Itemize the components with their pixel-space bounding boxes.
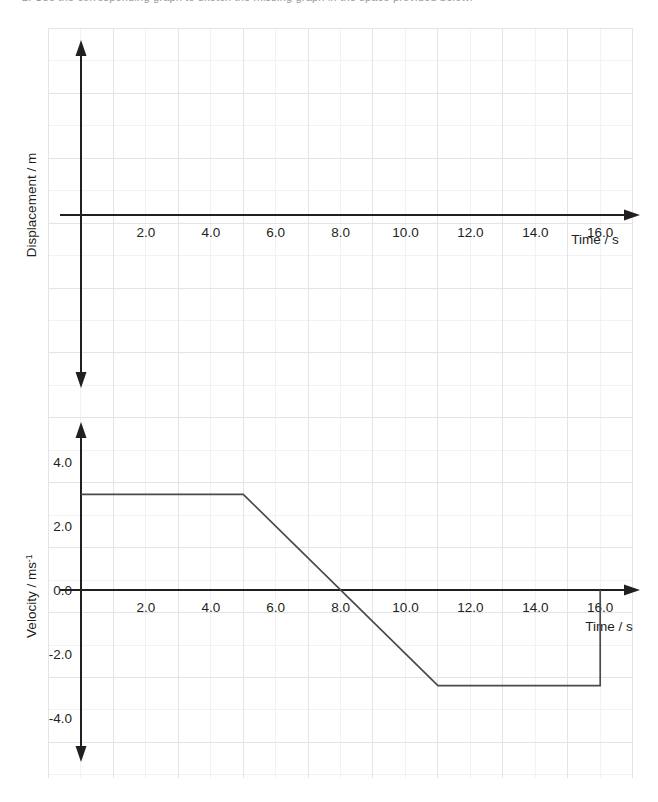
velocity-y-tick-labels: 4.02.00.0-2.0-4.0 [49,455,72,725]
tick-label: 10.0 [392,225,418,240]
tick-label: 12.0 [457,225,483,240]
tick-label: 4.0 [53,455,72,470]
tick-label: 8.0 [331,225,350,240]
tick-label: 6.0 [266,600,285,615]
velocity-y-axis [76,422,87,762]
svg-text:Velocity / ms-1: Velocity / ms-1 [24,554,39,638]
velocity-y-axis-label: Velocity / ms-1 [24,554,39,638]
velocity-y-axis-label-superscript: -1 [24,554,34,562]
tick-label: 10.0 [392,600,418,615]
velocity-x-axis-label: Time / s [585,619,633,634]
grid-minor-lines [48,28,632,778]
tick-label: 12.0 [457,600,483,615]
tick-label: 2.0 [53,519,72,534]
velocity-x-axis [60,585,640,596]
displacement-y-axis-label: Displacement / m [24,153,39,257]
displacement-x-tick-labels: 2.04.06.08.010.012.014.016.0 [137,225,614,240]
tick-label: -4.0 [49,711,72,726]
tick-label: 2.0 [137,600,156,615]
displacement-chart: 2.04.06.08.010.012.014.016.0 Time / s Di… [24,40,640,388]
tick-label: 4.0 [201,600,220,615]
tick-label: 4.0 [201,225,220,240]
displacement-x-axis-label: Time / s [571,232,619,247]
velocity-y-axis-label-text: Velocity / ms [24,562,39,638]
tick-label: 14.0 [522,600,548,615]
tick-label: 14.0 [522,225,548,240]
tick-label: 2.0 [137,225,156,240]
velocity-chart: 2.04.06.08.010.012.014.016.0 4.02.00.0-2… [24,422,640,762]
tick-label: -2.0 [49,647,72,662]
displacement-x-axis [60,210,640,221]
tick-label: 6.0 [266,225,285,240]
tick-label: 8.0 [331,600,350,615]
worksheet-page: 2. Use the corresponding graph to sketch… [0,0,658,802]
graph-stage: 2.04.06.08.010.012.014.016.0 Time / s Di… [0,0,658,802]
tick-label: 0.0 [53,583,72,598]
